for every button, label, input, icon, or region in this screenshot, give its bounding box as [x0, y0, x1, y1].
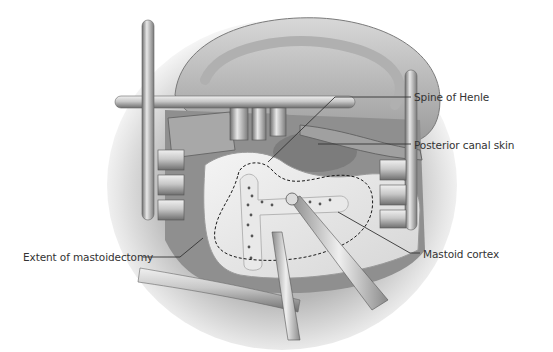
label-mastoid-cortex: Mastoid cortex [423, 248, 499, 260]
illustration: Spine of Henle Posterior canal skin Exte… [0, 0, 553, 352]
label-posterior-canal-skin: Posterior canal skin [414, 139, 514, 151]
label-spine-of-henle: Spine of Henle [414, 91, 489, 103]
retractor-top-blades [230, 108, 286, 140]
label-extent-of-mastoidectomy: Extent of mastoidectomy [23, 251, 153, 263]
drill-burr [286, 193, 298, 205]
retractor-right-blades [380, 160, 406, 228]
surgical-illustration [0, 0, 553, 352]
retractor-left-blades [158, 150, 184, 220]
retractor-left-rod [142, 20, 154, 220]
